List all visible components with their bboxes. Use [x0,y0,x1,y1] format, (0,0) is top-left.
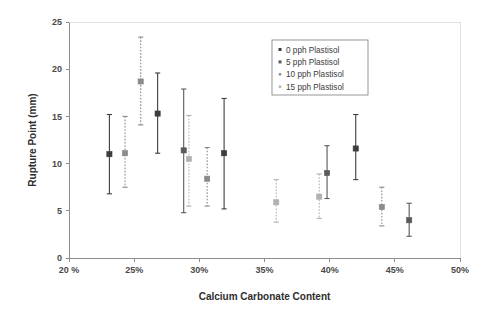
x-tick-label: 50% [451,265,469,275]
y-axis-title: Rupture Point (mm) [27,93,38,186]
legend-item-1[interactable]: 5 pph Plastisol [279,58,340,67]
x-tick-label: 25% [125,265,143,275]
data-marker [138,79,143,84]
data-marker [122,151,127,156]
data-marker [353,146,358,151]
chart-legend: 0 pph Plastisol5 pph Plastisol10 pph Pla… [272,40,368,95]
data-marker [317,194,322,199]
data-marker [274,200,279,205]
y-tick-label: 5 [57,206,62,216]
legend-label: 0 pph Plastisol [286,46,339,55]
y-tick-label: 15 [52,112,62,122]
y-tick-label: 20 [52,64,62,74]
data-marker [407,218,412,223]
legend-marker [279,73,281,75]
x-tick-label: 45% [386,265,404,275]
chart-figure: 051015202520 %25%30%35%40%45%50% 0 pph P… [0,0,495,315]
legend-item-0[interactable]: 0 pph Plastisol [279,46,340,55]
legend-label: 15 pph Plastisol [286,83,344,92]
y-tick-label: 10 [52,159,62,169]
legend-marker [279,60,282,63]
data-marker [107,152,112,157]
x-tick-label: 20 % [59,265,80,275]
x-axis-title: Calcium Carbonate Content [199,291,331,302]
y-tick-label: 0 [57,253,62,263]
legend-label: 10 pph Plastisol [286,70,344,79]
x-tick-label: 40% [321,265,339,275]
x-tick-label: 35% [255,265,273,275]
x-tick-label: 30% [190,265,208,275]
data-marker [181,148,186,153]
data-marker [155,111,160,116]
data-marker [379,204,384,209]
data-marker [205,176,210,181]
y-tick-label: 25 [52,17,62,27]
data-marker [221,151,226,156]
rupture-point-scatter-chart: 051015202520 %25%30%35%40%45%50% 0 pph P… [0,0,495,315]
legend-item-2[interactable]: 10 pph Plastisol [279,70,344,79]
legend-marker [279,48,282,51]
legend-item-3[interactable]: 15 pph Plastisol [279,83,344,92]
legend-label: 5 pph Plastisol [286,58,339,67]
data-marker [186,156,191,161]
legend-marker [279,86,281,88]
data-marker [324,170,329,175]
